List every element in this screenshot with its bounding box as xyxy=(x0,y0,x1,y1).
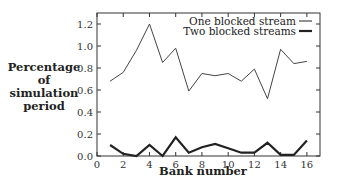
series-two-blocked-streams xyxy=(110,137,307,156)
y-tick-label: 1.2 xyxy=(77,19,93,30)
y-axis-label: Percentageofsimulationperiod xyxy=(8,60,81,113)
x-tick-label: 16 xyxy=(301,159,314,170)
x-tick-label: 14 xyxy=(274,159,287,170)
y-axis-label-line: period xyxy=(23,99,65,113)
x-tick-label: 2 xyxy=(120,159,126,170)
x-tick-label: 4 xyxy=(146,159,152,170)
y-tick-label: 1.0 xyxy=(77,41,93,52)
legend-label: Two blocked streams xyxy=(183,25,296,37)
y-tick-label: 0.4 xyxy=(77,107,93,118)
y-axis: 0.00.20.40.60.81.01.2 xyxy=(77,19,320,162)
y-tick-label: 0.2 xyxy=(77,129,93,140)
x-axis-label: Bank number xyxy=(159,164,248,178)
y-axis-label-line: of xyxy=(38,73,52,87)
x-tick-label: 0 xyxy=(94,159,100,170)
y-tick-label: 0.6 xyxy=(77,85,93,96)
y-tick-label: 0.0 xyxy=(77,151,93,162)
y-axis-label-line: Percentage xyxy=(8,60,81,74)
legend: One blocked streamTwo blocked streams xyxy=(183,15,312,37)
y-axis-label-line: simulation xyxy=(10,86,80,100)
line-chart: 0.00.20.40.60.81.01.2 0246810121416 One … xyxy=(0,0,340,192)
x-tick-label: 12 xyxy=(248,159,261,170)
series-lines xyxy=(110,24,307,156)
